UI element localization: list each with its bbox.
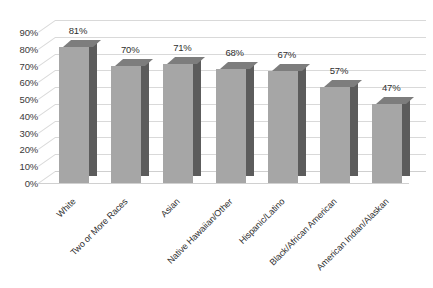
y-axis-tick-label: 50% [0, 94, 38, 105]
bar-side-face [350, 80, 358, 176]
bar-column [372, 97, 410, 183]
bar-column [320, 80, 358, 183]
gridline-slant [38, 54, 56, 67]
bar-value-label: 57% [330, 65, 348, 76]
gridline [55, 37, 426, 38]
x-axis-category-label: Native Hawaiian/Other [128, 196, 234, 288]
gridline-slant [38, 104, 56, 117]
y-axis-tick-label: 60% [0, 77, 38, 88]
gridline-slant [38, 171, 56, 184]
bar-value-label: 71% [173, 42, 191, 53]
bar-side-face [246, 62, 254, 176]
bar-front-face [268, 71, 298, 183]
x-axis-category-label: American Indian/Alaskan [285, 196, 391, 288]
gridline-slant [38, 87, 56, 100]
bar-value-label: 81% [69, 25, 87, 36]
bar-value-label: 68% [225, 47, 243, 58]
gridline-slant [38, 20, 56, 33]
axis-baseline [38, 183, 409, 184]
x-axis-category-label: Asian [76, 196, 182, 288]
bar-column [268, 64, 306, 183]
bar-column [163, 57, 201, 183]
bar-front-face [216, 69, 246, 183]
gridline [55, 20, 426, 21]
bar-front-face [320, 87, 350, 183]
y-axis-tick-label: 80% [0, 43, 38, 54]
bar-chart: 90%80%70%60%50%40%30%20%10%0% 81%70%71%6… [0, 0, 433, 288]
bar-value-label: 70% [121, 44, 139, 55]
bar-front-face [163, 64, 193, 183]
y-axis-tick-label: 40% [0, 110, 38, 121]
y-axis-tick-label: 10% [0, 161, 38, 172]
bar-front-face [372, 104, 402, 183]
x-axis-category-label: Black/African American [232, 196, 338, 288]
bar-side-face [89, 40, 97, 176]
plot-area: 90%80%70%60%50%40%30%20%10%0% 81%70%71%6… [0, 0, 433, 288]
gridline-slant [38, 154, 56, 167]
y-axis-tick-label: 90% [0, 27, 38, 38]
y-axis-tick-label: 0% [0, 178, 38, 189]
y-axis-tick-label: 70% [0, 60, 38, 71]
gridline-slant [38, 70, 56, 83]
gridline-slant [38, 137, 56, 150]
bar-side-face [193, 57, 201, 176]
y-axis-tick-label: 30% [0, 127, 38, 138]
bar-value-label: 47% [382, 82, 400, 93]
bar-column [216, 62, 254, 183]
bar-column [111, 59, 149, 183]
bar-front-face [111, 66, 141, 183]
x-axis-category-label: Hispanic/Latino [180, 196, 286, 288]
bar-side-face [141, 59, 149, 176]
gridline-slant [38, 121, 56, 134]
y-axis-tick-label: 20% [0, 144, 38, 155]
bar-value-label: 67% [278, 49, 296, 60]
bar-side-face [298, 64, 306, 176]
x-axis-category-label: Two or More Races [24, 196, 130, 288]
bar-side-face [402, 97, 410, 176]
bar-column [59, 40, 97, 183]
gridline-slant [38, 37, 56, 50]
bar-front-face [59, 47, 89, 183]
